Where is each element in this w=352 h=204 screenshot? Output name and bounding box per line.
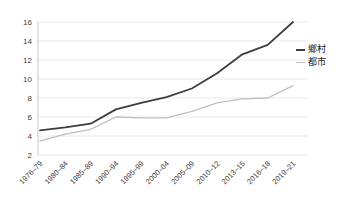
series-line-rural [40, 22, 293, 130]
x-axis-tick-label: 1985–89 [68, 159, 95, 186]
x-axis-tick-label: 1990–94 [93, 159, 120, 186]
legend: 鄉村 都市 [296, 44, 326, 68]
x-axis-tick-label: 1976–79 [17, 159, 44, 186]
chart-canvas: 2468101214161976–791980–841985–891990–94… [0, 0, 352, 204]
x-axis-tick-label: 2005–09 [169, 159, 196, 186]
x-axis-tick-label: 1980–84 [43, 159, 70, 186]
x-axis-tick-label: 2010–12 [195, 159, 222, 186]
y-axis-tick-label: 4 [28, 132, 33, 141]
y-axis-tick-label: 8 [28, 94, 33, 103]
y-axis-tick-label: 16 [23, 18, 32, 27]
y-axis-tick-label: 2 [28, 151, 33, 160]
y-axis-tick-label: 14 [23, 37, 32, 46]
y-axis-tick-label: 12 [23, 56, 32, 65]
legend-item-urban: 都市 [296, 57, 326, 68]
legend-marker-urban-icon [296, 62, 305, 64]
x-axis-tick-label: 2016–18 [245, 159, 272, 186]
y-axis-tick-label: 6 [28, 113, 33, 122]
line-chart: 2468101214161976–791980–841985–891990–94… [0, 0, 352, 204]
legend-item-rural: 鄉村 [296, 44, 326, 55]
x-axis-tick-label: 2013–15 [220, 159, 247, 186]
legend-label-urban: 都市 [308, 57, 326, 68]
legend-label-rural: 鄉村 [308, 44, 326, 55]
x-axis-tick-label: 2000–04 [144, 159, 171, 186]
x-axis-tick-label: 1995–99 [119, 159, 146, 186]
x-axis-tick-label: 2019–21 [270, 159, 297, 186]
legend-marker-rural-icon [296, 49, 305, 51]
y-axis-tick-label: 10 [23, 75, 32, 84]
series-line-urban [40, 86, 293, 141]
